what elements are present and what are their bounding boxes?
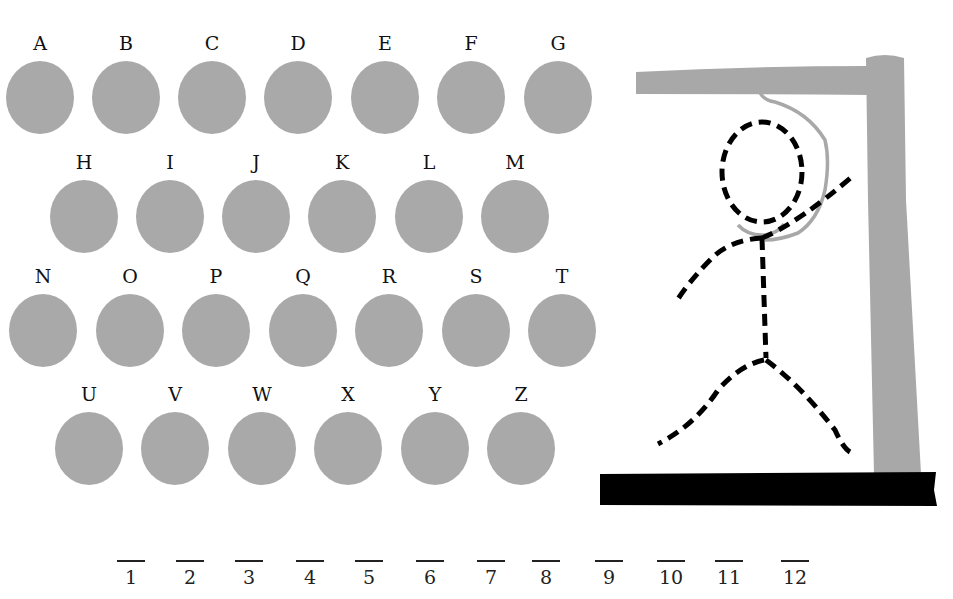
right-leg	[766, 360, 850, 452]
body	[762, 238, 766, 358]
rope	[760, 93, 828, 240]
hangman-drawing	[0, 0, 953, 599]
head	[722, 122, 802, 222]
gallows-beam	[636, 66, 870, 95]
gallows-post	[866, 55, 921, 474]
right-arm	[762, 174, 855, 238]
noose-loop	[738, 224, 784, 235]
left-leg	[658, 360, 764, 444]
left-arm	[676, 238, 762, 302]
gallows-base	[600, 472, 937, 506]
